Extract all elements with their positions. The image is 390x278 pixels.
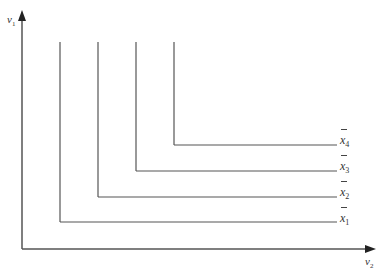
x-axis-label-sub: 2 (370, 262, 374, 270)
curve-label-sub: 1 (345, 218, 349, 227)
curve-label-sub: 3 (345, 166, 349, 175)
indifference-curve-x4 (174, 42, 337, 145)
curve-label-x4: x4 (340, 133, 349, 149)
indifference-curve-x2 (98, 42, 337, 197)
x-axis-label: v2 (365, 256, 373, 270)
x-axis-arrow-icon (365, 245, 376, 253)
diagram-canvas (0, 0, 390, 278)
curve-label-x1: x1 (340, 211, 349, 227)
curve-label-x3: x3 (340, 159, 349, 175)
y-axis-arrow-icon (18, 10, 26, 21)
indifference-curve-x3 (136, 42, 337, 171)
bar-accent (341, 155, 347, 156)
curve-label-x2: x2 (340, 185, 349, 201)
axes (18, 10, 376, 253)
y-axis-label: v1 (7, 14, 15, 28)
curve-label-sub: 4 (345, 140, 349, 149)
indifference-curve-x1 (60, 42, 337, 222)
bar-accent (341, 207, 347, 208)
curves (60, 42, 337, 222)
y-axis-label-sub: 1 (12, 20, 16, 28)
bar-accent (341, 181, 347, 182)
curve-label-sub: 2 (345, 192, 349, 201)
bar-accent (341, 129, 347, 130)
